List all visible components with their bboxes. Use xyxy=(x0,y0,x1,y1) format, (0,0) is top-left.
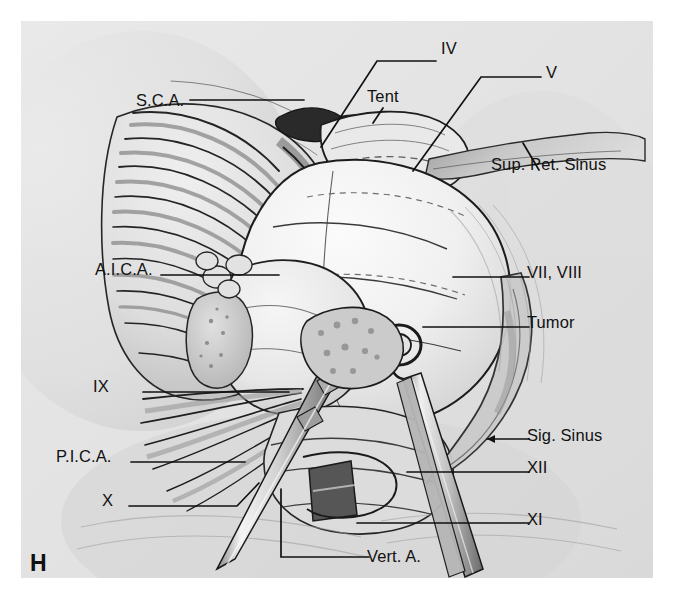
label-sig-sinus: Sig. Sinus xyxy=(527,427,602,444)
label-vii-viii: VII, VIII xyxy=(527,264,582,281)
label-vert-a: Vert. A. xyxy=(367,548,421,565)
medical-illustration-drawing xyxy=(21,21,653,578)
label-pica: P.I.C.A. xyxy=(56,448,112,465)
label-tent: Tent xyxy=(367,88,399,105)
label-aica: A.I.C.A. xyxy=(95,261,153,278)
label-xii: XII xyxy=(527,459,547,476)
label-xi: XI xyxy=(527,511,543,528)
label-sup-pet-sinus: Sup. Pet. Sinus xyxy=(491,156,606,173)
label-sca: S.C.A. xyxy=(136,92,184,109)
label-ix: IX xyxy=(93,378,109,395)
label-iv: IV xyxy=(441,40,457,57)
illustration-plate xyxy=(21,21,653,578)
label-x: X xyxy=(102,492,113,509)
panel-letter: H xyxy=(30,550,47,577)
figure-page: S.C.A. IV Tent V Sup. Pet. Sinus A.I.C.A… xyxy=(0,0,676,610)
label-tumor: Tumor xyxy=(527,314,575,331)
label-v: V xyxy=(546,64,557,81)
